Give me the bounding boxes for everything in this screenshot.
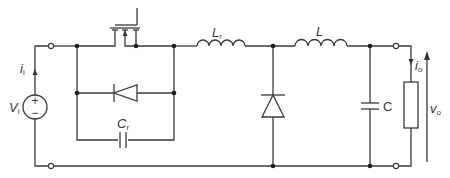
circuit-diagram: + − ii Vi Cr xyxy=(0,0,450,178)
input-current-arrow-icon xyxy=(33,69,38,75)
label-c: C xyxy=(383,99,392,114)
wires xyxy=(35,30,411,166)
mosfet-body-arrow-icon xyxy=(123,30,128,36)
voltage-source: + − xyxy=(23,94,47,120)
filter-capacitor xyxy=(361,103,379,109)
wire-source-bottom xyxy=(35,119,51,166)
terminals xyxy=(48,43,398,168)
label-output-current: io xyxy=(415,58,423,74)
label-l: L xyxy=(316,24,323,39)
antiparallel-diode xyxy=(114,84,137,102)
input-terminal-top xyxy=(48,43,53,48)
label-source-voltage: Vi xyxy=(9,100,20,116)
filter-inductor xyxy=(295,40,347,47)
wire-load-bottom xyxy=(396,128,411,166)
label-output-voltage: vo xyxy=(430,101,442,117)
diode-d1-triangle xyxy=(114,85,137,101)
wire-mosfet-drain xyxy=(136,30,174,46)
freewheel-diode xyxy=(261,95,285,117)
output-terminal-top xyxy=(393,43,398,48)
label-lr: Lr xyxy=(212,25,222,41)
label-cr: Cr xyxy=(117,116,129,132)
output-current-arrow-icon xyxy=(409,59,414,65)
junction-nodes xyxy=(75,44,373,169)
source-minus-sign: − xyxy=(31,106,38,120)
output-voltage-arrow-icon xyxy=(424,51,430,60)
wire-source-top xyxy=(35,46,51,95)
wire-load-top xyxy=(396,46,411,82)
input-terminal-bottom xyxy=(48,163,53,168)
label-input-current: ii xyxy=(20,61,25,77)
resonant-capacitor xyxy=(120,132,126,148)
diode-d2-triangle xyxy=(262,95,284,117)
load-resistor xyxy=(404,82,418,128)
output-terminal-bottom xyxy=(393,163,398,168)
wire-mosfet-source xyxy=(77,30,115,46)
